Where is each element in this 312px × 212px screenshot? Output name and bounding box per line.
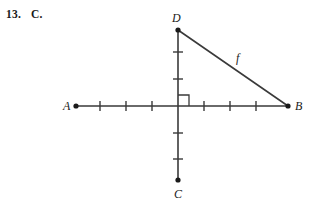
hypotenuse-line xyxy=(178,30,288,106)
point-label-B: B xyxy=(295,99,303,113)
vertex-dot-B xyxy=(285,103,290,108)
right-angle-marker xyxy=(178,95,189,106)
point-label-C: C xyxy=(174,187,183,201)
segment-label-f: f xyxy=(236,51,241,65)
vertex-dot-C xyxy=(175,177,180,182)
vertex-dot-D xyxy=(175,27,180,32)
point-label-D: D xyxy=(171,11,181,25)
vertex-dot-A xyxy=(73,103,78,108)
geometry-figure: A B C D f xyxy=(0,0,312,212)
figure-canvas: A B C D f xyxy=(0,0,312,212)
point-label-A: A xyxy=(62,99,71,113)
